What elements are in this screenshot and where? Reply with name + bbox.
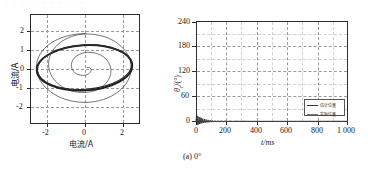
thetaticklabel-240: 240 <box>178 18 190 26</box>
tticklabel-200: 200 <box>219 127 231 135</box>
legend-box[interactable]: 估计位置 实际位置 <box>304 99 345 116</box>
theta-subscript: r <box>178 86 184 88</box>
x-axis-title-text: t/ms <box>261 138 274 147</box>
ttick-1000 <box>347 122 348 125</box>
figure-page: · · · · · · · · · · · -2 0 2 -2 -1 0 1 2 <box>0 0 368 177</box>
rotor-position-chart: 0 200 400 600 800 1 000 0 60 120 180 240… <box>0 0 368 177</box>
theta-unit: /(°) <box>173 75 182 86</box>
tticklabel-800: 800 <box>311 127 323 135</box>
legend-row-actual[interactable]: 实际位置 <box>307 111 342 117</box>
legend-row-estimated[interactable]: 估计位置 <box>307 102 342 108</box>
ttick-800 <box>318 122 319 125</box>
figure-caption: (a) 0° <box>183 152 201 161</box>
x-axis-title-right: t/ms <box>261 139 274 147</box>
legend-label-actual: 实际位置 <box>320 112 336 117</box>
tticklabel-1000: 1 000 <box>337 127 355 135</box>
ttick-600 <box>287 122 288 125</box>
legend-swatch-estimated <box>307 105 318 106</box>
legend-swatch-actual <box>307 114 318 115</box>
ttick-200 <box>226 122 227 125</box>
thetaticklabel-120: 120 <box>178 67 190 75</box>
y-axis-title-right: θr/(°) <box>174 75 184 92</box>
thetaticklabel-0: 0 <box>186 117 190 125</box>
tticklabel-400: 400 <box>250 127 262 135</box>
tticklabel-600: 600 <box>280 127 292 135</box>
legend-label-estimated: 估计位置 <box>320 103 336 108</box>
theta-symbol: θ <box>173 88 182 92</box>
thetaticklabel-60: 60 <box>181 92 189 100</box>
tticklabel-0: 0 <box>194 127 198 135</box>
thetaticklabel-180: 180 <box>178 42 190 50</box>
ttick-400 <box>257 122 258 125</box>
